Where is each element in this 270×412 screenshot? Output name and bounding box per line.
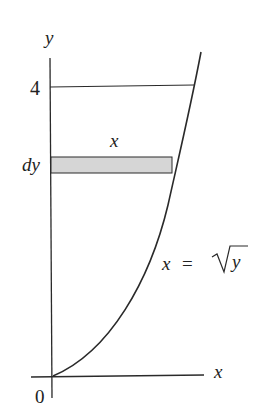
strip-width-label: x [109,130,119,151]
origin-label: 0 [35,386,45,407]
y-equals-4-line [50,85,194,87]
shaded-strip [51,157,172,173]
diagram-canvas: y x 0 4 x dy x = y [0,0,270,412]
equation-lhs: x [161,253,171,274]
y-axis-label: y [43,27,54,48]
radical-sign-icon [212,246,248,272]
curve-equation-label: x = y [161,246,248,274]
equation-equals: = [182,253,193,274]
equation-radicand: y [230,251,241,272]
x-axis [31,375,204,377]
x-axis-label: x [213,361,223,382]
y-axis [50,58,52,398]
y-tick-label-4: 4 [30,77,40,99]
dy-label: dy [22,154,41,175]
curve-sqrt [53,52,201,376]
